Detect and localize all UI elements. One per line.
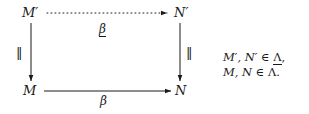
right-equality-mark: ‖ — [186, 46, 195, 59]
side-note-line-1-symbol: Λ — [273, 50, 281, 65]
side-note-line-1-suffix: , — [282, 50, 286, 64]
left-equality-mark: ‖ — [16, 46, 25, 59]
side-note: M′, N′ ∈ Λ, M, N ∈ Λ. — [223, 50, 285, 80]
node-top-right: N′ — [174, 6, 188, 19]
node-top-left: M′ — [22, 6, 38, 19]
bottom-edge-label: β — [100, 95, 107, 107]
node-bottom-left: M — [23, 84, 36, 97]
side-note-line-2: M, N ∈ Λ. — [223, 65, 285, 80]
commutative-diagram: M′ N′ M N β β ‖ ‖ M′, N′ ∈ Λ, M, N ∈ Λ. — [0, 0, 309, 114]
side-note-line-2-suffix: . — [276, 65, 280, 79]
side-note-line-1-prefix: M′, N′ ∈ — [223, 50, 273, 64]
top-edge-label: β — [99, 23, 106, 37]
side-note-line-2-prefix: M, N ∈ — [223, 65, 268, 79]
node-bottom-right: N — [175, 84, 186, 97]
side-note-line-1: M′, N′ ∈ Λ, — [223, 50, 285, 65]
